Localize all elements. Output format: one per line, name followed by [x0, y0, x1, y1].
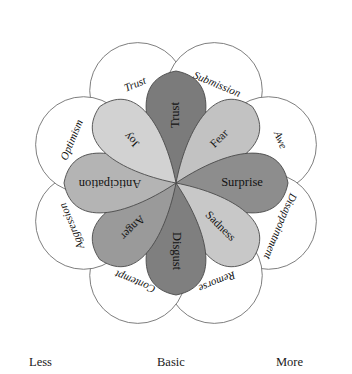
- axis-label-basic: Basic: [157, 355, 185, 370]
- axis-label-more: More: [276, 355, 303, 370]
- emotion-wheel-diagram: TrustSubmissionAweDisappointmentRemorseC…: [0, 0, 352, 374]
- axis-label-less: Less: [29, 355, 52, 370]
- petal-label-anticipation: Anticipation: [78, 177, 141, 191]
- petal-label-trust: Trust: [168, 102, 182, 128]
- petal-label-surprise: Surprise: [221, 175, 263, 189]
- plutchik-wheel-figure: TrustSubmissionAweDisappointmentRemorseC…: [0, 0, 352, 374]
- petal-label-disgust: Disgust: [170, 232, 184, 271]
